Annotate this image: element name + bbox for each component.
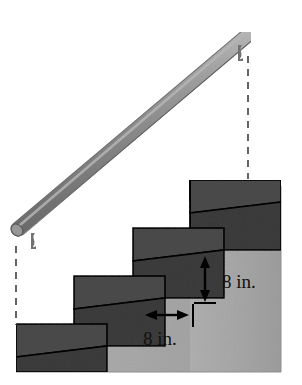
bracket-lower-shape <box>31 233 36 249</box>
figure-root: 8 in. 8 in. <box>0 0 302 385</box>
handrail-bracket-lower <box>31 233 36 249</box>
staircase-diagram: 8 in. 8 in. <box>0 0 302 385</box>
vertical-dimension-label: 8 in. <box>222 271 256 292</box>
horizontal-dimension-label: 8 in. <box>143 328 177 349</box>
step-1 <box>16 324 107 372</box>
